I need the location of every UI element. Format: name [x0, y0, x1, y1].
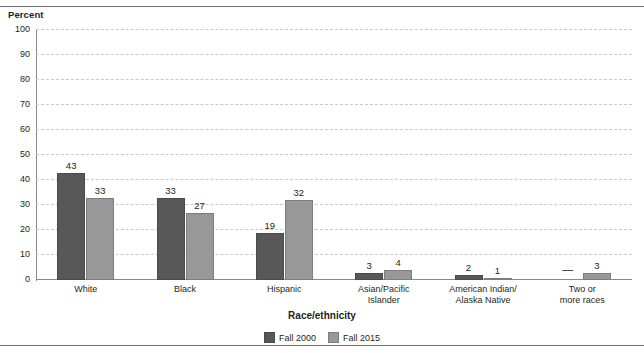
bar — [484, 278, 512, 281]
bar-group: 4333 — [57, 30, 114, 280]
x-category-label: American Indian/ Alaska Native — [433, 284, 532, 306]
bar-group: —3 — [554, 30, 611, 280]
bar-value-label: 4 — [378, 258, 418, 268]
x-axis-title: Race/ethnicity — [0, 310, 644, 321]
bar-value-label: 32 — [279, 188, 319, 198]
legend-item: Fall 2015 — [328, 332, 380, 343]
x-category-label: Hispanic — [235, 284, 334, 295]
gridline-70 — [36, 104, 632, 105]
gridline-90 — [36, 54, 632, 55]
legend-swatch — [264, 332, 275, 343]
x-category-label: Two or more races — [533, 284, 632, 306]
gridline-60 — [36, 129, 632, 130]
gridline-10 — [36, 254, 632, 255]
y-tick-label: 60 — [4, 124, 30, 134]
bar — [256, 233, 284, 281]
bar-group: 3327 — [157, 30, 214, 280]
y-tick-label: 100 — [4, 24, 30, 34]
x-category-label: Asian/Pacific Islander — [334, 284, 433, 306]
chart-legend: Fall 2000Fall 2015 — [0, 332, 644, 343]
gridline-50 — [36, 154, 632, 155]
bar — [583, 273, 611, 281]
legend-item: Fall 2000 — [264, 332, 316, 343]
legend-label: Fall 2000 — [279, 333, 316, 343]
y-tick-label: 20 — [4, 224, 30, 234]
bar-value-label: 3 — [577, 261, 617, 271]
bar-group: 34 — [355, 30, 412, 280]
y-tick-label: 30 — [4, 199, 30, 209]
bar — [285, 200, 313, 280]
x-category-label: Black — [135, 284, 234, 295]
y-tick-label: 80 — [4, 74, 30, 84]
y-tick-label: 10 — [4, 249, 30, 259]
gridline-30 — [36, 204, 632, 205]
y-tick-label: 0 — [4, 274, 30, 284]
bar — [455, 275, 483, 280]
y-tick-label: 40 — [4, 174, 30, 184]
bar-group: 21 — [455, 30, 512, 280]
bar-value-label: 19 — [250, 221, 290, 231]
bar-value-label: 33 — [151, 186, 191, 196]
gridline-80 — [36, 79, 632, 80]
bar — [186, 213, 214, 281]
bar-group: 1932 — [256, 30, 313, 280]
gridline-0 — [36, 279, 632, 280]
bar-value-label: 33 — [80, 186, 120, 196]
legend-swatch — [328, 332, 339, 343]
bar — [355, 273, 383, 281]
gridline-40 — [36, 179, 632, 180]
gridline-20 — [36, 229, 632, 230]
plot-area: 4333332719323421—3 — [36, 30, 632, 280]
bar — [86, 198, 114, 281]
legend-label: Fall 2015 — [343, 333, 380, 343]
y-tick-label: 50 — [4, 149, 30, 159]
bar-value-label: 1 — [478, 266, 518, 276]
bar — [384, 270, 412, 280]
y-tick-label: 70 — [4, 99, 30, 109]
x-category-label: White — [36, 284, 135, 295]
gridline-100 — [36, 29, 632, 30]
bar-value-label: 43 — [51, 161, 91, 171]
chart-page: Percent 1009080706050403020100 433333271… — [0, 0, 644, 353]
bar-value-label: 27 — [180, 201, 220, 211]
y-tick-label: 90 — [4, 49, 30, 59]
